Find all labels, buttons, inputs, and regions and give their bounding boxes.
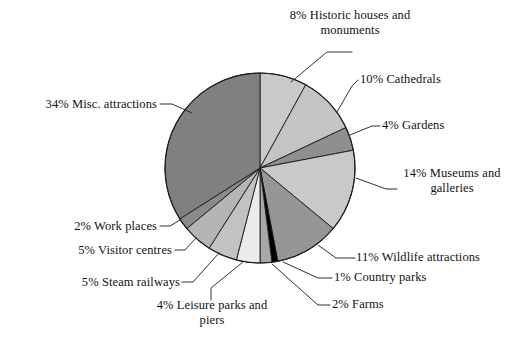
slice-label-wildlife: 11% Wildlife attractions: [356, 250, 511, 265]
slice-label-leisure-parks: 4% Leisure parks and piers: [112, 298, 312, 327]
leader-line-leisure-parks: [211, 262, 243, 300]
leader-line-museums: [356, 178, 397, 189]
slice-label-museums: 14% Museums and galleries: [392, 166, 512, 195]
leader-line-visitor-centres: [175, 238, 196, 250]
slice-label-country-parks: 1% Country parks: [334, 270, 510, 285]
slice-label-misc-attractions: 34% Misc. attractions: [6, 97, 157, 112]
slice-label-gardens: 4% Gardens: [382, 118, 510, 133]
slice-label-historic-houses: 8% Historic houses and monuments: [250, 8, 450, 37]
slice-label-work-places: 2% Work places: [10, 219, 157, 234]
leader-line-cathedrals: [337, 80, 358, 112]
leader-line-historic-houses: [291, 52, 352, 82]
leader-line-steam-railways: [182, 253, 219, 282]
slice-label-visitor-centres: 5% Visitor centres: [10, 243, 172, 258]
pie-slices-group: [165, 73, 355, 263]
leader-line-country-parks: [283, 262, 332, 278]
leader-line-gardens: [350, 126, 380, 135]
pie-chart-figure: 8% Historic houses and monuments 10% Cat…: [0, 0, 515, 345]
slice-label-cathedrals: 10% Cathedrals: [360, 72, 510, 87]
slice-label-farms: 2% Farms: [332, 297, 510, 312]
slice-label-steam-railways: 5% Steam railways: [10, 275, 180, 290]
leader-line-wildlife: [318, 245, 355, 258]
leader-line-work-places: [160, 220, 180, 226]
